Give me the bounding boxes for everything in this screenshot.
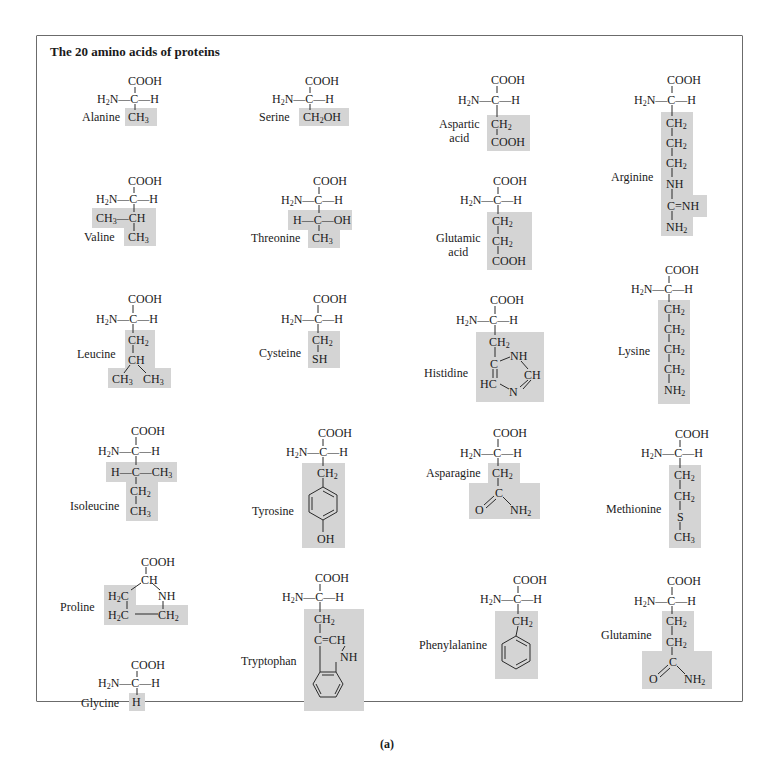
carboxyl-group: COOH <box>305 74 339 88</box>
amino-group: H2N—C—H <box>641 446 703 460</box>
figure-caption: (a) <box>380 737 394 752</box>
ring-n: N <box>509 385 518 399</box>
carboxyl-group: COOH <box>141 555 175 569</box>
name-label: Asparagine <box>426 466 481 480</box>
name-label: Tryptophan <box>241 654 297 668</box>
side-chain-h-c-oh: H—C—OH <box>293 213 351 227</box>
amino-group: H2N—C—H <box>634 594 696 608</box>
indole-c-eq-ch: C=CH <box>314 633 345 647</box>
side-chain-ch2oh: CH2OH <box>303 110 341 124</box>
carboxyl-group: COOH <box>491 73 525 87</box>
side-chain-ch2: CH2 <box>674 468 695 482</box>
side-chain-guanidino: C=NH <box>667 199 699 213</box>
ring-h2c: H2C <box>108 589 129 603</box>
carboxyl-group: COOH <box>315 571 349 585</box>
side-chain-h: H <box>132 695 141 709</box>
amino-group: H2N—C—H <box>460 446 522 460</box>
carboxyl-group: COOH <box>490 293 524 307</box>
side-chain-ch2: CH2 <box>666 136 687 150</box>
side-chain-ch2: CH2 <box>666 614 687 628</box>
amino-group: H2N—C—H <box>98 676 160 690</box>
ring-ch2: CH2 <box>158 608 179 622</box>
side-chain-ch2: CH2 <box>491 117 512 131</box>
side-chain-ch3: CH3 <box>128 110 149 124</box>
indole-nh: NH <box>340 650 357 664</box>
side-chain-highlight <box>661 112 693 236</box>
side-chain-ch2: CH2 <box>664 342 685 356</box>
side-chain-ch2: CH2 <box>130 484 151 498</box>
side-chain-ch3: CH3 <box>130 504 151 518</box>
name-label: Phenylalanine <box>419 638 487 652</box>
amide-c: C <box>495 486 503 500</box>
side-chain-ch2: CH2 <box>666 116 687 130</box>
amino-group: H2N—C—H <box>460 193 522 207</box>
side-chain-ch3: CH3 <box>674 530 695 544</box>
name-label: Leucine <box>77 347 116 361</box>
carboxyl-group: COOH <box>513 573 547 587</box>
amino-group: H2N—C—H <box>286 445 348 459</box>
name-label: Alanine <box>82 110 120 124</box>
side-chain-ch2: CH2 <box>512 614 533 628</box>
side-chain-ch3-ch: CH3—CH <box>96 211 145 225</box>
ring-nh: NH <box>158 589 175 603</box>
amino-group: H2N—C—H <box>456 313 518 327</box>
side-chain-ch2: CH2 <box>314 612 335 626</box>
side-chain-ch3: CH3 <box>143 372 164 386</box>
carboxyl-group: COOH <box>493 174 527 188</box>
side-chain-ch2: CH2 <box>317 466 338 480</box>
name-label: Serine <box>259 110 290 124</box>
side-chain-s: S <box>677 510 684 524</box>
amino-group: H2N—C—H <box>272 92 334 106</box>
side-chain-ch2: CH2 <box>664 362 685 376</box>
amino-group: H2N—C—H <box>281 193 343 207</box>
name-label: Valine <box>84 230 115 244</box>
ring-h2c: H2C <box>108 608 129 622</box>
side-chain-ch3: CH3 <box>112 372 133 386</box>
carboxyl-group: COOH <box>131 658 165 672</box>
alpha-ch: CH <box>141 573 158 587</box>
ring-c: C <box>490 357 498 371</box>
side-chain-sh: SH <box>312 352 327 366</box>
side-chain-ch2: CH2 <box>674 489 695 503</box>
carboxyl-group: COOH <box>128 74 162 88</box>
ring-ch: CH <box>524 368 541 382</box>
amino-group: H2N—C—H <box>281 312 343 326</box>
amide-nh2: NH2 <box>684 672 705 686</box>
ring-hc: HC <box>480 377 497 391</box>
carboxyl-group: COOH <box>128 174 162 188</box>
amino-group: H2N—C—H <box>480 592 542 606</box>
ring-nh: NH <box>510 349 527 363</box>
carboxyl-group: COOH <box>493 426 527 440</box>
name-label: Tyrosine <box>252 504 294 518</box>
name-label: Methionine <box>606 502 661 516</box>
side-chain-h-c-ch3: H—C—CH3 <box>111 465 172 479</box>
name-label: Asparticacid <box>439 117 480 145</box>
name-label: Arginine <box>611 170 653 184</box>
amino-group: H2N—C—H <box>98 444 160 458</box>
carboxyl-group: COOH <box>675 427 709 441</box>
side-chain-ch2: CH2 <box>492 234 513 248</box>
side-chain-ch2: CH2 <box>489 335 510 349</box>
name-label: Threonine <box>251 231 300 245</box>
name-label: Histidine <box>424 366 468 380</box>
side-chain-ch2: CH2 <box>664 302 685 316</box>
side-chain-cooh: COOH <box>491 135 525 149</box>
amino-group: H2N—C—H <box>631 282 693 296</box>
name-label: Glycine <box>81 696 119 710</box>
amide-nh2: NH2 <box>510 503 531 517</box>
side-chain-ch3: CH3 <box>312 231 333 245</box>
side-chain-ch2: CH2 <box>492 214 513 228</box>
carboxyl-group: COOH <box>667 574 701 588</box>
side-chain-oh: OH <box>317 532 334 546</box>
side-chain-ch2: CH2 <box>666 156 687 170</box>
side-chain-nh: NH <box>666 177 683 191</box>
amino-group: H2N—C—H <box>96 192 158 206</box>
side-chain-ch2: CH2 <box>492 466 513 480</box>
amino-group: H2N—C—H <box>458 93 520 107</box>
name-label: Lysine <box>618 344 650 358</box>
name-label: Isoleucine <box>70 499 119 513</box>
name-label: Proline <box>60 600 95 614</box>
carboxyl-group: COOH <box>313 174 347 188</box>
side-chain-ch2: CH2 <box>664 322 685 336</box>
amino-group: H2N—C—H <box>634 93 696 107</box>
